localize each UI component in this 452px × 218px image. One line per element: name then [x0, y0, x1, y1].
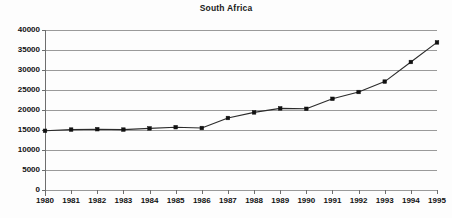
chart-container: South Africa 050001000015000200002500030… — [0, 0, 452, 218]
data-point-marker — [383, 80, 387, 84]
x-axis-tick-label: 1995 — [422, 196, 452, 205]
data-point-marker — [95, 127, 99, 131]
data-point-marker — [148, 127, 152, 131]
data-point-marker — [122, 128, 126, 132]
data-point-marker — [278, 107, 282, 111]
data-series-line — [45, 42, 437, 130]
data-point-marker — [174, 125, 178, 129]
chart-plot-area — [0, 0, 452, 218]
data-point-marker — [435, 41, 439, 45]
data-point-marker — [305, 107, 309, 111]
data-point-marker — [331, 97, 335, 101]
data-point-marker — [226, 116, 230, 120]
y-axis-tick-label: 35000 — [0, 45, 40, 54]
y-axis-tick-label: 0 — [0, 185, 40, 194]
data-point-marker — [43, 129, 47, 133]
y-axis-tick-label: 15000 — [0, 125, 40, 134]
data-point-marker — [357, 90, 361, 94]
y-axis-tick-label: 5000 — [0, 165, 40, 174]
y-axis-tick-label: 30000 — [0, 65, 40, 74]
data-point-marker — [69, 128, 73, 132]
data-point-marker — [409, 60, 413, 64]
data-point-marker — [200, 126, 204, 130]
data-point-marker — [252, 111, 256, 115]
y-axis-tick-label: 10000 — [0, 145, 40, 154]
y-axis-tick-label: 40000 — [0, 25, 40, 34]
y-axis-tick-label: 25000 — [0, 85, 40, 94]
y-axis-tick-label: 20000 — [0, 105, 40, 114]
